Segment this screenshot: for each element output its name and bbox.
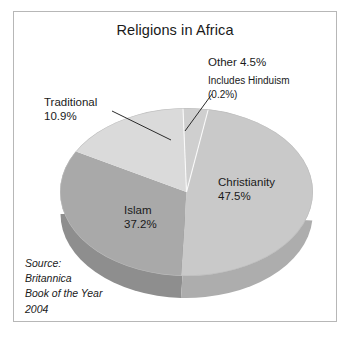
source-line-2: Britannica xyxy=(25,271,102,286)
slice-label-traditional: Traditional 10.9% xyxy=(44,95,97,124)
slice-label-other: Other 4.5% xyxy=(208,55,266,69)
source-line-1: Source: xyxy=(25,256,102,271)
other-note-line1: Includes Hinduism xyxy=(208,74,290,88)
christianity-value: 47.5% xyxy=(218,189,275,203)
islam-name: Islam xyxy=(124,203,157,217)
pie-chart-figure: Religions in Africa xyxy=(0,0,350,343)
slice-note-other: Includes Hinduism (0.2%) xyxy=(208,74,290,101)
other-note-line2: (0.2%) xyxy=(208,88,290,102)
slice-label-christianity: Christianity 47.5% xyxy=(218,175,275,204)
traditional-value: 10.9% xyxy=(44,109,97,123)
source-line-3: Book of the Year xyxy=(25,286,102,301)
slice-label-islam: Islam 37.2% xyxy=(124,203,157,232)
islam-value: 37.2% xyxy=(124,217,157,231)
leader-line-traditional xyxy=(112,111,171,140)
traditional-name: Traditional xyxy=(44,95,97,109)
source-note: Source: Britannica Book of the Year 2004 xyxy=(25,256,102,317)
source-line-4: 2004 xyxy=(25,302,102,317)
christianity-name: Christianity xyxy=(218,175,275,189)
